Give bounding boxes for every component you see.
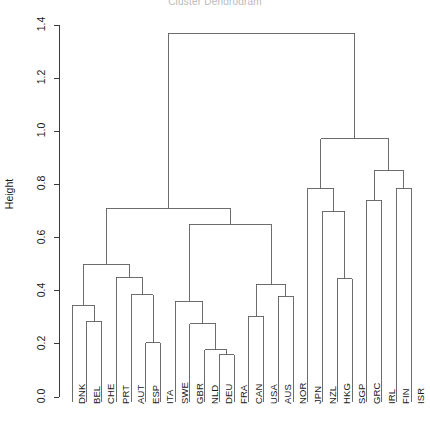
- leaf-label-che: CHE: [105, 384, 116, 404]
- merge-link-m16: [337, 279, 352, 397]
- merge-link-m17: [323, 211, 345, 397]
- merge-link-m14: [189, 224, 271, 301]
- leaf-label-aut: AUT: [135, 385, 146, 404]
- leaf-label-prt: PRT: [120, 385, 131, 404]
- merge-link-m15: [106, 208, 230, 264]
- merge-link-m12: [278, 296, 293, 397]
- leaf-label-dnk: DNK: [76, 384, 87, 404]
- merge-link-m18: [308, 188, 334, 397]
- leaf-label-fra: FRA: [238, 385, 249, 404]
- leaf-label-isr: ISR: [415, 388, 426, 404]
- leaf-label-aus: AUS: [282, 384, 293, 404]
- leaf-label-jpn: JPN: [312, 386, 323, 404]
- leaf-label-fin: FIN: [400, 388, 411, 404]
- leaf-label-nld: NLD: [209, 385, 220, 404]
- dendrogram-tree: [0, 0, 430, 441]
- merge-link-m5: [116, 277, 142, 397]
- merge-link-m4: [131, 295, 153, 397]
- leaf-label-deu: DEU: [223, 384, 234, 404]
- leaf-label-irl: IRL: [386, 389, 397, 404]
- leaf-label-ita: ITA: [164, 390, 175, 404]
- dendrogram-plot: Cluster Dendrogram Height 0.00.20.40.60.…: [0, 0, 430, 441]
- merge-link-m19: [367, 200, 382, 397]
- leaf-label-bel: BEL: [91, 386, 102, 404]
- leaf-label-usa: USA: [268, 384, 279, 404]
- leaf-label-hkg: HKG: [341, 383, 352, 404]
- y-axis-line: [54, 25, 59, 397]
- merge-link-m21: [374, 171, 403, 201]
- leaf-label-gbr: GBR: [194, 383, 205, 404]
- leaf-label-nor: NOR: [297, 383, 308, 404]
- merge-link-m22: [321, 139, 389, 189]
- leaf-label-can: CAN: [253, 384, 264, 404]
- merge-link-m20: [396, 188, 411, 397]
- leaf-label-swe: SWE: [179, 382, 190, 404]
- leaf-label-grc: GRC: [371, 383, 382, 404]
- leaf-label-nzl: NZL: [327, 386, 338, 404]
- merge-link-m13: [256, 284, 286, 316]
- merge-link-m6: [83, 264, 129, 305]
- merge-link-m23: [168, 33, 355, 208]
- leaf-label-sgp: SGP: [356, 384, 367, 404]
- leaf-label-esp: ESP: [150, 385, 161, 404]
